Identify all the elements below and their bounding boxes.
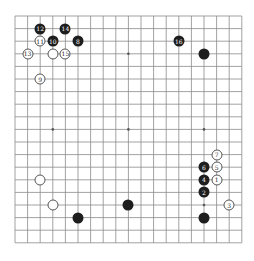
black-stone[interactable]: 10 [47,36,58,47]
black-stone[interactable]: 6 [199,162,210,173]
white-stone[interactable]: 5 [211,162,222,173]
black-stone[interactable]: 14 [60,23,71,34]
black-stone[interactable]: 16 [173,36,184,47]
black-stone[interactable] [123,200,134,211]
white-stone[interactable] [47,200,58,211]
black-stone[interactable]: 2 [199,187,210,198]
white-stone[interactable]: 11 [35,36,46,47]
white-stone[interactable] [47,48,58,59]
black-stone[interactable] [73,212,84,223]
black-stone[interactable] [199,48,210,59]
white-stone[interactable]: 15 [60,48,71,59]
black-stone[interactable]: 4 [199,174,210,185]
white-stone[interactable] [35,174,46,185]
white-stone[interactable]: 1 [211,174,222,185]
black-stone[interactable]: 8 [73,36,84,47]
white-stone[interactable]: 7 [211,149,222,160]
white-stone[interactable]: 13 [22,48,33,59]
go-board[interactable]: 12141110813159167654123 [0,0,254,261]
white-stone[interactable]: 9 [35,74,46,85]
black-stone[interactable]: 12 [35,23,46,34]
black-stone[interactable] [199,212,210,223]
white-stone[interactable]: 3 [224,200,235,211]
